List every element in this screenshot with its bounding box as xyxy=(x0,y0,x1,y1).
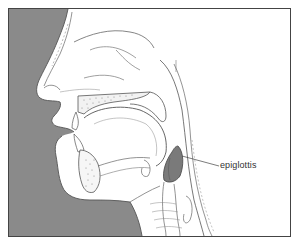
epiglottis-label: epiglottis xyxy=(220,160,257,170)
sagittal-section-diagram xyxy=(0,0,296,243)
